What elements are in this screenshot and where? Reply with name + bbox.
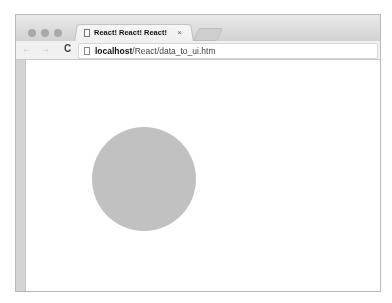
minimize-window-button[interactable] <box>41 29 49 37</box>
url-host: localhost <box>95 46 132 56</box>
address-bar[interactable]: localhost /React/data_to_ui.htm <box>78 43 378 59</box>
forward-arrow-icon[interactable]: → <box>40 43 50 54</box>
new-tab-button[interactable] <box>193 28 223 41</box>
tab-title: React! React! React! <box>94 28 167 37</box>
page-icon <box>84 29 90 37</box>
maximize-window-button[interactable] <box>54 29 62 37</box>
browser-window: React! React! React! × ← → C localhost /… <box>15 14 381 292</box>
left-edge <box>16 60 26 291</box>
back-arrow-icon[interactable]: ← <box>22 43 32 54</box>
close-tab-icon[interactable]: × <box>177 28 182 37</box>
tab-active[interactable]: React! React! React! × <box>74 24 192 41</box>
window-controls <box>28 29 62 37</box>
page-icon <box>84 47 90 55</box>
reload-icon[interactable]: C <box>64 43 71 54</box>
close-window-button[interactable] <box>28 29 36 37</box>
tab-bar: React! React! React! × <box>16 15 380 42</box>
gray-circle <box>92 127 196 231</box>
page-content <box>16 60 380 291</box>
toolbar: ← → C localhost /React/data_to_ui.htm <box>16 41 380 60</box>
url-path: /React/data_to_ui.htm <box>132 46 215 56</box>
